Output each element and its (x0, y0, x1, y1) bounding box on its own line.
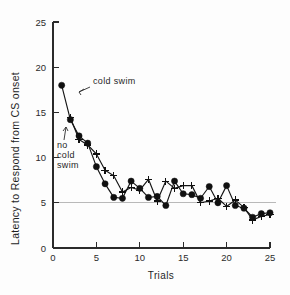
data-point (128, 178, 134, 184)
axes-group (53, 22, 270, 248)
data-point (206, 197, 213, 204)
annotation-label-no: no (57, 140, 68, 150)
series-line-1 (70, 118, 270, 220)
x-tick-label-25: 25 (265, 252, 276, 263)
y-tick-label-25: 25 (35, 17, 46, 28)
x-tick-label-20: 20 (221, 252, 232, 263)
y-tick-label-20: 20 (35, 62, 46, 73)
data-point (119, 195, 125, 201)
figure-container: 0510152025 0510152025 Latency to Respond… (0, 0, 290, 295)
annotation-cold-swim: cold swim (79, 76, 136, 95)
x-tick-label-0: 0 (50, 252, 55, 263)
y-tick-label-5: 5 (41, 197, 46, 208)
line-chart: 0510152025 0510152025 Latency to Respond… (0, 0, 290, 295)
data-point (180, 191, 186, 197)
x-tick-label-10: 10 (135, 252, 146, 263)
y-tick-label-0: 0 (41, 243, 46, 254)
annotation-label-cold-swim: cold swim (93, 76, 136, 86)
data-point (102, 181, 108, 187)
data-point (110, 172, 117, 179)
y-axis-title-group: Latency to Respond from CS onset (9, 72, 21, 245)
annotation-no-cold-swim: no cold swim (57, 127, 79, 170)
data-point (59, 82, 65, 88)
leader-arrow-cold-swim (79, 87, 90, 95)
data-point (145, 194, 151, 200)
y-axis-tick-group: 0510152025 (35, 17, 59, 254)
series-cold-swim (59, 82, 274, 220)
y-tick-label-10: 10 (35, 152, 46, 163)
annotation-label-swim: swim (57, 160, 79, 170)
x-axis-tick-group: 0510152025 (50, 242, 275, 263)
leader-arrow-no-cold-swim (63, 127, 68, 140)
data-point (206, 183, 212, 189)
data-point (189, 192, 195, 198)
data-point (171, 178, 177, 184)
x-tick-label-5: 5 (94, 252, 99, 263)
y-axis-title: Latency to Respond from CS onset (9, 72, 21, 245)
data-point (111, 194, 117, 200)
data-point (163, 202, 169, 208)
data-point (93, 164, 99, 170)
y-tick-label-15: 15 (35, 107, 46, 118)
data-point (180, 182, 187, 189)
data-point (188, 182, 195, 189)
data-point (224, 183, 230, 189)
series-line-0 (62, 85, 270, 217)
data-point (101, 167, 108, 174)
x-tick-label-15: 15 (178, 252, 189, 263)
x-axis-title: Trials (148, 270, 174, 281)
annotation-label-cold: cold (57, 150, 75, 160)
